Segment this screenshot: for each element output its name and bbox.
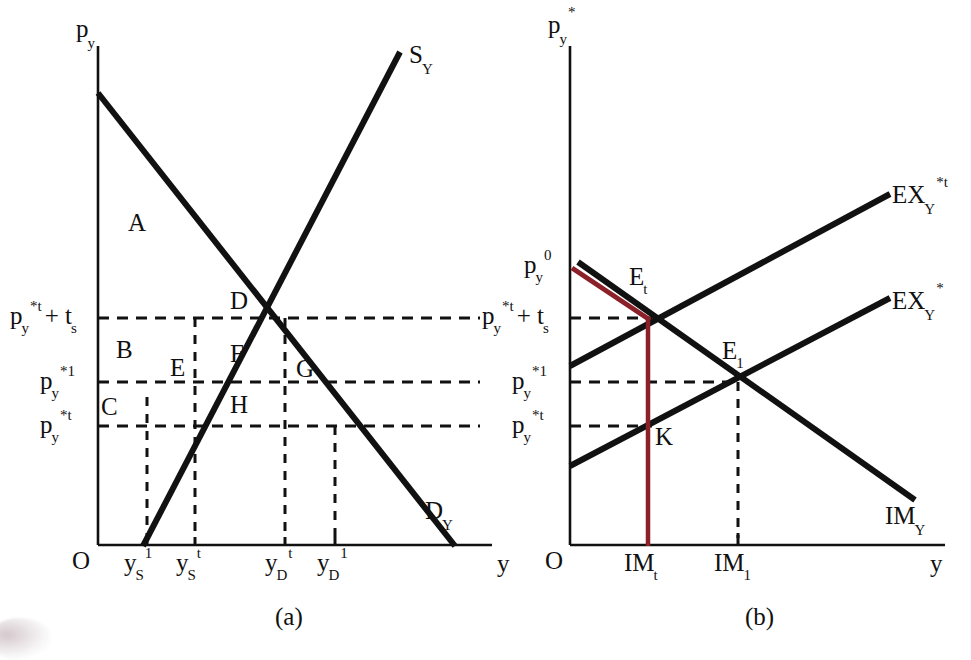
panel-a-ytick-pstar1: py*1 bbox=[40, 368, 75, 396]
panel-a-ytick-pstart: py*t bbox=[40, 412, 72, 440]
panel-b-y-axis-label: py* bbox=[548, 12, 576, 42]
panel-b-ytick-pstart: py*t bbox=[512, 412, 544, 440]
panel-b-ytick-pstart-plus-ts: py*t+ ts bbox=[482, 303, 550, 331]
panel-b-x-axis-label: y bbox=[930, 551, 943, 576]
panel-b-xtick-im1: IM1 bbox=[714, 550, 752, 578]
panel-a-xtick-ys1: yS1 bbox=[124, 550, 152, 578]
region-label-c: C bbox=[101, 394, 118, 419]
panel-a-xtick-ydt: yDt bbox=[265, 550, 293, 578]
panel-b-origin-label: O bbox=[545, 548, 563, 573]
panel-a-graphics bbox=[98, 46, 492, 546]
panel-a-caption: (a) bbox=[275, 604, 303, 629]
region-label-f: F bbox=[230, 341, 244, 366]
supply-curve-sy bbox=[143, 52, 400, 546]
panel-a-origin-label: O bbox=[72, 548, 90, 573]
region-label-h: H bbox=[230, 392, 248, 417]
panel-b-caption: (b) bbox=[745, 604, 774, 629]
panel-b-ytick-pstar1: py*1 bbox=[512, 368, 547, 396]
export-supply-label: EXY* bbox=[892, 288, 944, 318]
region-label-e: E bbox=[170, 355, 185, 380]
region-label-b: B bbox=[116, 337, 133, 362]
panel-a-ytick-pstart-plus-ts: py*t+ ts bbox=[10, 303, 78, 331]
panel-a-xtick-yst: ySt bbox=[176, 550, 201, 578]
point-label-k: K bbox=[655, 424, 673, 449]
panel-a-x-axis-label: y bbox=[497, 551, 510, 576]
panel-b-graphics bbox=[570, 46, 945, 546]
scan-artifact-smudge bbox=[0, 618, 52, 660]
panel-b-ytick-py0: py0 bbox=[524, 252, 552, 280]
region-label-a: A bbox=[128, 210, 146, 235]
export-supply-subsidised-label: EXY*t bbox=[892, 182, 948, 212]
region-label-g: G bbox=[296, 356, 314, 381]
point-label-et: Et bbox=[629, 264, 648, 292]
demand-curve-label: DY bbox=[425, 498, 454, 528]
supply-curve-label: SY bbox=[409, 42, 434, 72]
region-label-d: D bbox=[230, 288, 248, 313]
panel-a-xtick-yd1: yD1 bbox=[317, 550, 348, 578]
panel-b-xtick-imt: IMt bbox=[624, 550, 659, 578]
point-label-e1: E1 bbox=[722, 338, 745, 366]
import-demand-label: IMY bbox=[885, 503, 926, 533]
panel-a-y-axis-label: py bbox=[76, 16, 96, 46]
